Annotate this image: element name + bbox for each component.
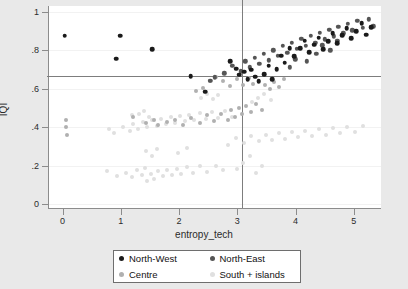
y-tick-label-5: 1 [11,7,39,17]
data-point [260,108,264,112]
x-tick-2 [179,209,180,215]
data-point [156,123,160,127]
legend-item-south-islands[interactable]: South + islands [210,269,301,280]
data-point [235,77,239,81]
data-point [303,129,307,133]
data-point [131,115,135,119]
data-point [287,65,291,69]
data-point [223,109,227,113]
data-point [328,48,332,52]
data-point [304,44,308,48]
data-point [155,147,159,151]
data-point [228,84,232,88]
data-point [124,171,128,175]
data-point [189,116,193,120]
legend-item-north-west[interactable]: North-West [119,253,210,264]
data-point [237,73,242,78]
data-point [178,114,182,118]
data-point [257,139,261,143]
data-point [367,17,371,21]
data-point [226,118,230,122]
data-point [142,109,146,113]
data-point [324,133,328,137]
y-tick-2 [42,127,48,128]
data-point [364,33,369,38]
data-point [156,169,160,173]
data-point [211,97,215,101]
data-point [173,118,177,122]
data-point [270,138,274,142]
data-point [204,117,208,121]
data-point [234,66,239,71]
data-point [270,77,275,82]
legend: North-WestNorth-EastCentreSouth + island… [113,250,301,283]
x-tick-label-2: 2 [177,216,182,226]
data-point [128,129,132,133]
data-point [221,168,225,172]
data-point [64,125,68,129]
data-point [181,123,185,127]
data-point [145,179,149,183]
data-point [140,173,144,177]
data-point [203,89,208,94]
data-point [150,154,154,158]
data-point [257,62,261,66]
data-point [222,71,226,75]
legend-item-centre[interactable]: Centre [119,269,210,280]
y-tick-label-3: .6 [11,84,39,94]
data-point [121,125,125,129]
x-tick-label-4: 4 [293,216,298,226]
data-point [214,164,218,168]
data-point [205,170,209,174]
legend-label: Centre [129,269,158,280]
data-point [188,74,193,79]
data-point [310,134,314,138]
x-tick-label-3: 3 [235,216,240,226]
data-point [170,173,174,177]
data-point [221,79,225,83]
data-point [292,54,297,59]
x-tick-3 [237,209,238,215]
data-point [64,118,68,122]
data-point [241,83,245,87]
data-point [199,96,203,100]
y-tick-label-4: .8 [11,45,39,55]
data-point [233,115,237,119]
data-point [144,149,148,153]
data-point [240,112,244,116]
data-point [307,50,312,55]
data-point [262,92,266,96]
y-tick-label-2: .4 [11,122,39,132]
data-point [242,69,247,74]
data-point [266,63,271,68]
data-point [198,121,202,125]
y-tick-3 [42,89,48,90]
x-tick-5 [354,209,355,215]
data-point [161,174,165,178]
data-point [143,166,147,170]
data-point [159,117,163,121]
data-point [234,136,238,140]
x-tick-0 [63,209,64,215]
data-point [282,77,286,81]
data-point [287,46,292,51]
legend-item-north-east[interactable]: North-East [210,253,301,264]
data-point [285,50,289,54]
x-tick-label-1: 1 [118,216,123,226]
data-point [326,39,331,44]
data-point [349,36,354,41]
data-point [165,168,169,172]
data-point [314,52,318,56]
data-point [354,29,359,34]
data-point [335,41,340,46]
data-point [269,98,273,102]
plot-area [48,6,381,209]
data-point [210,110,214,114]
data-point [262,72,267,77]
data-point [115,174,119,178]
data-point [131,122,135,126]
data-point [228,59,233,64]
data-point [216,116,220,120]
data-point [312,43,317,48]
data-points-layer [49,6,381,208]
